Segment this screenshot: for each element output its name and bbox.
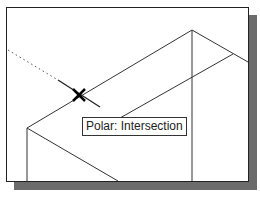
polar-tracking-line [8,50,58,80]
edge-parallel [120,54,233,118]
snap-tooltip: Polar: Intersection [82,117,187,136]
drawing-canvas[interactable] [0,0,260,198]
edge-peak-right [192,30,248,62]
edge-left-upper [27,30,192,128]
